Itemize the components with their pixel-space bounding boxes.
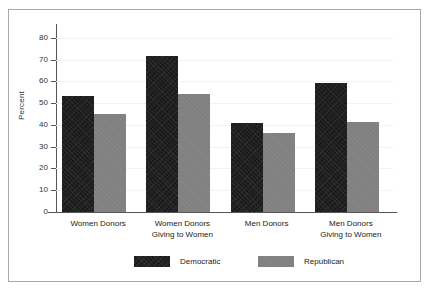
x-axis-line <box>48 212 397 213</box>
y-tick-mark <box>51 212 56 213</box>
bar-group <box>309 27 393 212</box>
bar-democratic-1 <box>146 56 178 212</box>
legend-label: Democratic <box>180 257 220 266</box>
bar-group <box>140 27 224 212</box>
y-tick-label: 80 <box>39 34 48 42</box>
legend-item-republican: Republican <box>258 256 344 267</box>
y-tick-label: 50 <box>39 99 48 107</box>
chart-figure: Percent 01020304050607080 Women DonorsWo… <box>0 0 431 298</box>
legend-label: Republican <box>304 257 344 266</box>
y-tick-label: 20 <box>39 164 48 172</box>
bar-democratic-0 <box>62 96 94 212</box>
bar-republican-1 <box>178 94 210 212</box>
y-tick-label: 10 <box>39 186 48 194</box>
plot-area: 01020304050607080 <box>56 27 393 212</box>
bar-democratic-2 <box>231 123 263 212</box>
x-axis-label-3: Men Donors Giving to Women <box>295 218 407 240</box>
bar-republican-0 <box>94 114 126 212</box>
y-tick-label: 40 <box>39 121 48 129</box>
y-tick-label: 0 <box>44 208 48 216</box>
chart-legend: DemocraticRepublican <box>56 256 393 270</box>
y-axis-title: Percent <box>17 91 26 120</box>
bar-republican-3 <box>347 122 379 212</box>
y-tick-label: 30 <box>39 143 48 151</box>
bar-republican-2 <box>263 133 295 212</box>
gray-swatch <box>258 256 294 267</box>
bar-democratic-3 <box>315 83 347 213</box>
y-tick-label: 60 <box>39 77 48 85</box>
legend-item-democratic: Democratic <box>134 256 220 267</box>
dark-pattern-swatch <box>134 256 170 267</box>
y-tick-label: 70 <box>39 56 48 64</box>
bar-group <box>225 27 309 212</box>
bar-group <box>56 27 140 212</box>
